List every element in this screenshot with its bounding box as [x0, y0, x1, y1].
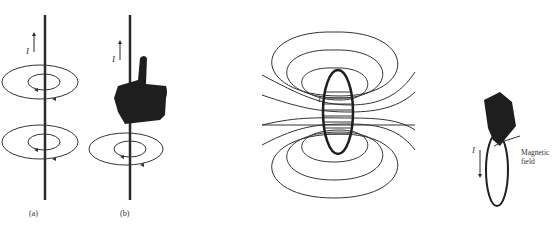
- right-hand-icon: [114, 56, 167, 124]
- field-loop-outer: [2, 125, 78, 159]
- loop-rungs: [324, 92, 352, 134]
- field-loop-outer: [89, 133, 163, 165]
- current-label: I: [317, 94, 322, 104]
- right-hand-icon: [484, 92, 516, 146]
- field-loop-outer: [2, 65, 78, 99]
- current-label: I: [471, 145, 476, 155]
- panel-c: I: [262, 32, 415, 198]
- panel-d: I Magnetic field: [471, 92, 550, 206]
- panel-a: I (a): [2, 15, 78, 218]
- field-line: [287, 132, 383, 180]
- panel-b: I (b): [89, 15, 167, 218]
- current-label: I: [25, 46, 30, 56]
- current-label: I: [111, 54, 116, 64]
- caption-b: (b): [120, 209, 130, 218]
- field-line: [287, 50, 383, 98]
- magnetic-field-diagram: I (a) I (b): [0, 0, 559, 229]
- magnetic-field-label: Magnetic: [521, 148, 550, 157]
- caption-a: (a): [29, 209, 38, 218]
- magnetic-field-label: field: [521, 157, 535, 166]
